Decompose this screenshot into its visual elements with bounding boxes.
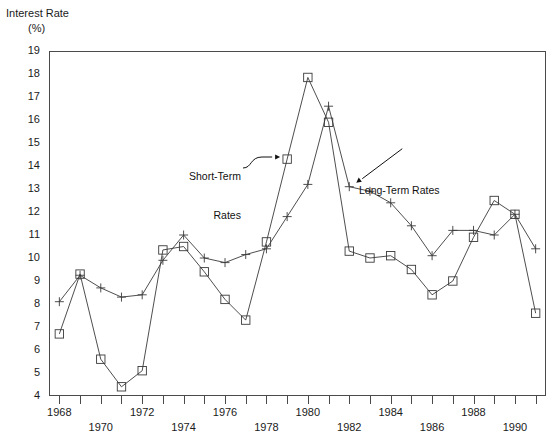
x-tick-mark xyxy=(453,396,454,404)
plot-area xyxy=(49,51,546,396)
y-axis-title-line2: (%) xyxy=(28,21,45,35)
y-tick-label: 15 xyxy=(14,136,40,148)
x-tick-label: 1982 xyxy=(329,421,369,433)
data-point-marker xyxy=(283,155,291,163)
x-tick-mark xyxy=(411,396,412,404)
data-point-marker xyxy=(138,290,147,299)
x-tick-mark xyxy=(432,396,433,404)
x-tick-mark xyxy=(474,396,475,404)
y-tick-label: 9 xyxy=(14,274,40,286)
data-point-marker xyxy=(117,293,126,302)
y-tick-label: 5 xyxy=(14,366,40,378)
x-tick-mark xyxy=(329,396,330,404)
data-point-marker xyxy=(241,250,250,259)
data-point-marker xyxy=(345,247,353,255)
annotation-short-term-line2: Rates xyxy=(189,209,241,222)
data-point-marker xyxy=(138,367,146,375)
x-tick-mark xyxy=(80,396,81,404)
x-tick-mark xyxy=(370,396,371,404)
chart-root: Interest Rate (%) 1918171615141312111098… xyxy=(0,0,557,436)
data-point-marker xyxy=(490,196,498,204)
data-point-marker xyxy=(531,244,540,253)
x-tick-mark xyxy=(204,396,205,404)
annotation-short-term-rates: Short-Term Rates xyxy=(189,144,241,248)
x-tick-mark xyxy=(287,396,288,404)
annotation-long-term-line1: Long-Term Rates xyxy=(359,184,440,197)
data-point-marker xyxy=(200,268,208,276)
y-tick-label: 12 xyxy=(14,205,40,217)
x-tick-label: 1986 xyxy=(412,421,452,433)
y-tick-label: 17 xyxy=(14,90,40,102)
y-tick-label: 13 xyxy=(14,182,40,194)
y-axis-title-line1: Interest Rate xyxy=(6,6,69,20)
y-tick-label: 8 xyxy=(14,297,40,309)
x-tick-mark xyxy=(391,396,392,404)
x-tick-mark xyxy=(163,396,164,404)
y-tick-label: 4 xyxy=(14,389,40,401)
data-point-marker xyxy=(283,212,292,221)
data-point-marker xyxy=(366,254,374,262)
x-tick-label: 1984 xyxy=(371,406,411,418)
data-point-marker xyxy=(531,309,539,317)
x-tick-mark xyxy=(101,396,102,404)
data-point-marker xyxy=(386,252,394,260)
data-point-marker xyxy=(449,277,457,285)
y-tick-label: 14 xyxy=(14,159,40,171)
x-tick-label: 1978 xyxy=(246,421,286,433)
x-tick-label: 1968 xyxy=(39,406,79,418)
x-tick-mark xyxy=(536,396,537,404)
data-point-marker xyxy=(55,297,64,306)
y-tick-label: 6 xyxy=(14,343,40,355)
annotation-long-term-rates: Long-Term Rates xyxy=(359,158,440,223)
x-tick-label: 1980 xyxy=(288,406,328,418)
data-point-marker xyxy=(428,291,436,299)
data-point-marker xyxy=(345,182,354,191)
data-point-marker xyxy=(179,242,187,250)
y-tick-label: 10 xyxy=(14,251,40,263)
data-point-marker xyxy=(117,383,125,391)
x-tick-label: 1972 xyxy=(122,406,162,418)
data-point-marker xyxy=(159,246,167,254)
data-point-marker xyxy=(96,283,105,292)
series-square xyxy=(55,73,540,391)
x-tick-mark xyxy=(349,396,350,404)
x-tick-mark xyxy=(266,396,267,404)
data-point-marker xyxy=(221,295,229,303)
y-tick-label: 19 xyxy=(14,44,40,56)
x-tick-mark xyxy=(308,396,309,404)
x-tick-mark xyxy=(142,396,143,404)
x-tick-label: 1974 xyxy=(164,421,204,433)
data-point-marker xyxy=(97,355,105,363)
data-point-marker xyxy=(303,180,312,189)
series-plus xyxy=(55,102,540,307)
x-tick-label: 1970 xyxy=(81,421,121,433)
y-tick-label: 18 xyxy=(14,67,40,79)
x-tick-label: 1990 xyxy=(495,421,535,433)
data-point-marker xyxy=(55,330,63,338)
x-tick-label: 1976 xyxy=(205,406,245,418)
x-tick-mark xyxy=(494,396,495,404)
series-line xyxy=(59,77,535,386)
x-tick-mark xyxy=(121,396,122,404)
x-tick-mark xyxy=(59,396,60,404)
data-point-marker xyxy=(242,316,250,324)
data-point-marker xyxy=(407,265,415,273)
x-tick-label: 1988 xyxy=(454,406,494,418)
series-line xyxy=(59,106,535,302)
annotation-short-term-line1: Short-Term xyxy=(189,170,241,183)
x-tick-mark xyxy=(225,396,226,404)
data-point-marker xyxy=(324,102,333,111)
data-point-marker xyxy=(304,73,312,81)
y-tick-label: 11 xyxy=(14,228,40,240)
y-tick-label: 16 xyxy=(14,113,40,125)
x-tick-mark xyxy=(515,396,516,404)
y-tick-label: 7 xyxy=(14,320,40,332)
x-tick-mark xyxy=(246,396,247,404)
x-tick-mark xyxy=(184,396,185,404)
data-point-marker xyxy=(221,258,230,267)
series-layer xyxy=(49,51,546,396)
